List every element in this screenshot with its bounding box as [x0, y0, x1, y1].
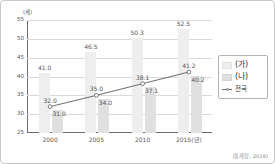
legend-item-nationwide: 전국: [222, 83, 264, 95]
y-axis-tick-label: 30: [17, 111, 24, 117]
legend-label-na: (나): [235, 73, 248, 81]
line-data-label: 35.0: [90, 86, 103, 92]
line-data-label: 41.2: [182, 63, 195, 69]
y-axis-tick-label: 40: [17, 74, 24, 80]
x-axis-tick-label: 2010: [135, 137, 150, 143]
plot-area: 25303540455055 41.031.046.534.050.337.15…: [27, 20, 212, 133]
y-axis-tick-label: 25: [17, 130, 24, 136]
line-data-label: 32.0: [43, 98, 56, 104]
y-axis-tick-label: 50: [17, 36, 24, 42]
chart-legend: (가) (나) 전국: [218, 55, 268, 99]
y-axis-unit-label: (세): [23, 10, 32, 15]
line-data-label: 38.1: [136, 75, 149, 81]
y-axis-tick-label: 35: [17, 93, 24, 99]
legend-label-nationwide: 전국: [235, 86, 247, 93]
y-axis-tick-label: 45: [17, 55, 24, 61]
legend-line-marker-icon: [222, 86, 232, 93]
source-note: (통계청, 2016): [232, 154, 268, 159]
nationwide-line-series: [27, 20, 212, 133]
legend-label-ga: (가): [235, 61, 248, 69]
legend-item-ga: (가): [222, 59, 264, 71]
legend-item-na: (나): [222, 71, 264, 83]
legend-swatch-icon-na: [222, 74, 232, 81]
x-axis-tick-label: 2005: [89, 137, 104, 143]
x-axis-tick-label: 2015(년): [176, 137, 202, 143]
legend-swatch-icon-ga: [222, 62, 232, 69]
chart-figure: (세) 25303540455055 41.031.046.534.050.33…: [0, 0, 275, 164]
x-axis-tick-label: 2000: [42, 137, 57, 143]
y-axis-tick-label: 55: [17, 17, 24, 23]
